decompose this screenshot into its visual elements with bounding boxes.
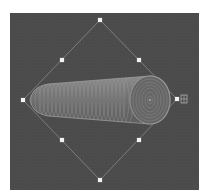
handle-right[interactable]: [175, 97, 179, 101]
handle-bottom[interactable]: [98, 178, 102, 182]
rotate-icon[interactable]: [181, 95, 187, 103]
tapered-cylinder-object[interactable]: [30, 76, 170, 124]
handle-left[interactable]: [21, 98, 25, 102]
handle-top-left[interactable]: [60, 58, 64, 62]
handle-top[interactable]: [98, 18, 102, 22]
handle-bottom-left[interactable]: [60, 138, 64, 142]
handle-bottom-right[interactable]: [137, 138, 141, 142]
handle-top-right[interactable]: [137, 58, 141, 62]
